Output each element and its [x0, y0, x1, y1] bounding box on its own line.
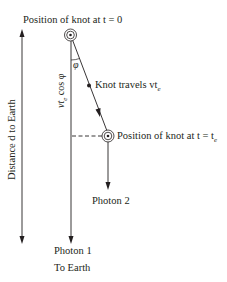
photon2-path	[106, 141, 111, 190]
vertical-component-rest-text: cos φ	[55, 74, 66, 98]
knot-travels-subscript: e	[157, 85, 160, 93]
angle-label: φ	[73, 60, 79, 70]
vertical-component-text: vt	[55, 101, 66, 108]
arrowhead-down-icon	[106, 182, 111, 190]
knot-end-marker	[102, 130, 114, 142]
photon1-label: Photon 1	[54, 246, 92, 257]
distance-label: Distance d to Earth	[7, 99, 18, 180]
knot-start-label: Position of knot at t = 0	[23, 15, 122, 26]
knot-end-text: Position of knot at t = t	[117, 130, 214, 141]
photon1-text: Photon 1	[54, 245, 92, 256]
distance-text: Distance d to Earth	[6, 99, 17, 180]
knot-travels-label: Knot travels vte	[95, 80, 161, 93]
knot-travels-text: Knot travels vt	[95, 79, 157, 90]
arrowhead-diagonal-icon	[96, 108, 101, 117]
knot-moving-dot	[87, 84, 91, 88]
knot-start-text: Position of knot at t = 0	[23, 14, 122, 25]
to-earth-label: To Earth	[54, 263, 90, 274]
knot-start-marker	[65, 29, 77, 41]
to-earth-text: To Earth	[54, 262, 90, 273]
arrowhead-down-icon	[20, 236, 25, 244]
photon2-text: Photon 2	[92, 195, 130, 206]
arrowhead-down-icon	[69, 236, 74, 244]
knot-end-subscript: e	[214, 136, 217, 144]
arrowhead-up-icon	[20, 29, 25, 37]
angle-text: φ	[73, 59, 79, 70]
knot-end-label: Position of knot at t = te	[117, 131, 217, 144]
photon2-label: Photon 2	[92, 196, 130, 207]
vertical-component-subscript: e	[61, 98, 69, 101]
distance-arrow	[20, 29, 25, 244]
vertical-component-label: vte cos φ	[56, 74, 69, 108]
